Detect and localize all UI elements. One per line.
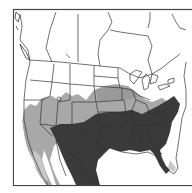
map-svg [0, 0, 192, 193]
range-map [0, 0, 192, 193]
